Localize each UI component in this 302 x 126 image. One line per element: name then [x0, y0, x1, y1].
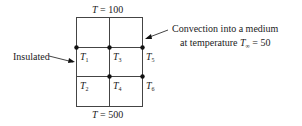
top-boundary-label: T = 100 [92, 5, 123, 15]
node-label-t3: T3 [113, 52, 122, 63]
node-dot [140, 45, 144, 49]
arrowhead-right [145, 34, 152, 39]
node-dot [74, 45, 78, 49]
convection-label-line1: Convection into a medium [172, 24, 278, 34]
node-label-t2: T2 [80, 81, 89, 92]
bottom-boundary-label: T = 500 [92, 110, 123, 120]
node-dot [140, 74, 144, 78]
arrowhead-left [68, 58, 75, 63]
node-label-t6: T6 [146, 81, 155, 92]
node-label-t4: T4 [113, 81, 122, 92]
node-label-t1: T1 [80, 52, 89, 63]
node-label-t5: T5 [146, 52, 155, 63]
grid-diagram [0, 0, 302, 126]
convection-label-line2: at temperature T∞ = 50 [180, 38, 270, 49]
node-dot [107, 45, 111, 49]
node-dot [107, 74, 111, 78]
insulated-label: Insulated [13, 52, 50, 62]
